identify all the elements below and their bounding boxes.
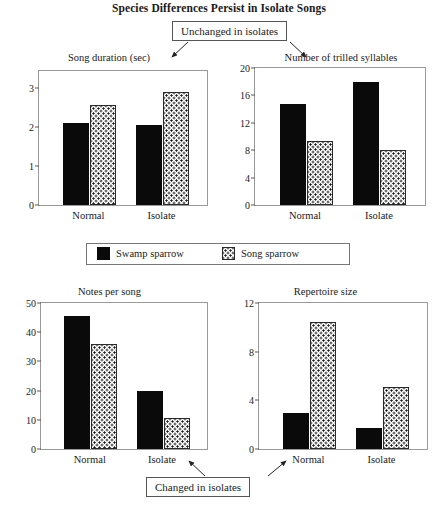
legend-swatch-dotted-icon	[222, 247, 235, 260]
bar-group	[255, 68, 425, 205]
x-axis-label-normal: Normal	[72, 210, 104, 221]
x-axis-label-normal: Normal	[74, 454, 106, 465]
bar-notes-per-song-isolate-song	[164, 418, 190, 449]
chart-title: Number of trilled syllables	[246, 52, 436, 63]
bar-trilled-syllables-isolate-swamp	[353, 82, 379, 205]
chart-song-duration: Song duration (sec) 0123 NormalIsolate	[12, 54, 208, 224]
chart-title: Song duration (sec)	[14, 52, 204, 63]
plot-area: 04812	[258, 302, 428, 450]
bar-notes-per-song-normal-swamp	[64, 316, 90, 449]
plot-area: 0123	[38, 70, 208, 206]
bar-notes-per-song-isolate-swamp	[137, 391, 163, 449]
x-axis-label-normal: Normal	[289, 210, 321, 221]
page-title: Species Differences Persist in Isolate S…	[0, 2, 438, 14]
bar-repertoire-size-isolate-song	[383, 387, 409, 449]
bar-song-duration-isolate-song	[163, 92, 189, 205]
bar-song-duration-isolate-swamp	[136, 125, 162, 205]
legend: Swamp sparrow Song sparrow	[86, 243, 350, 265]
bar-group	[259, 303, 427, 449]
bar-group	[39, 71, 207, 205]
bar-trilled-syllables-isolate-song	[380, 150, 406, 205]
legend-item-song-sparrow: Song sparrow	[222, 247, 299, 260]
legend-item-swamp-sparrow: Swamp sparrow	[97, 247, 184, 260]
x-axis-label-isolate: Isolate	[367, 454, 395, 465]
bar-group	[41, 303, 207, 449]
legend-swatch-solid-icon	[97, 247, 110, 260]
bar-song-duration-normal-song	[90, 105, 116, 205]
x-axis-label-normal: Normal	[292, 454, 324, 465]
chart-notes-per-song: Notes per song 01020304050 NormalIsolate	[12, 288, 208, 468]
chart-repertoire-size: Repertoire size 04812 NormalIsolate	[228, 288, 428, 468]
legend-label: Song sparrow	[241, 248, 299, 259]
bar-song-duration-normal-swamp	[63, 123, 89, 205]
bar-repertoire-size-isolate-swamp	[356, 428, 382, 449]
bar-trilled-syllables-normal-swamp	[280, 104, 306, 205]
annotation-unchanged: Unchanged in isolates	[172, 21, 287, 41]
x-axis-label-isolate: Isolate	[147, 210, 175, 221]
plot-area: 048121620	[254, 67, 426, 206]
bar-repertoire-size-normal-swamp	[283, 413, 309, 450]
plot-area: 01020304050	[40, 302, 208, 450]
x-axis-label-isolate: Isolate	[365, 210, 393, 221]
bar-trilled-syllables-normal-song	[307, 141, 333, 205]
chart-title: Notes per song	[12, 286, 207, 297]
legend-label: Swamp sparrow	[116, 248, 184, 259]
annotation-changed: Changed in isolates	[146, 477, 250, 497]
x-axis-label-isolate: Isolate	[148, 454, 176, 465]
chart-trilled-syllables: Number of trilled syllables 048121620 No…	[228, 54, 428, 224]
bar-repertoire-size-normal-song	[310, 322, 336, 449]
bar-notes-per-song-normal-song	[91, 344, 117, 449]
chart-title: Repertoire size	[228, 286, 423, 297]
